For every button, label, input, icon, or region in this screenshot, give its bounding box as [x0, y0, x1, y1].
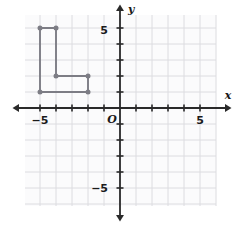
vertex-point — [86, 74, 91, 79]
y-axis-arrow-up — [116, 5, 124, 12]
coordinate-plane-figure: y x O −5 5 5 −5 — [0, 0, 241, 225]
y-tick-label-pos-five: 5 — [100, 24, 108, 37]
vertex-point — [86, 90, 91, 95]
x-tick-label-pos-five: 5 — [196, 114, 204, 127]
y-axis-arrow-down — [116, 215, 124, 222]
coordinate-plane-svg: y x O −5 5 5 −5 — [0, 0, 241, 225]
y-tick-label-neg-five: −5 — [91, 182, 108, 195]
vertex-point — [54, 74, 59, 79]
vertex-point — [38, 26, 43, 31]
vertex-point — [54, 26, 59, 31]
x-axis-label: x — [224, 89, 232, 102]
y-axis-label: y — [127, 3, 136, 16]
x-axis-arrow-left — [13, 104, 20, 112]
vertex-point — [38, 90, 43, 95]
x-axis-arrow-right — [225, 104, 232, 112]
origin-label: O — [107, 113, 117, 126]
x-tick-label-neg-five: −5 — [32, 114, 49, 127]
